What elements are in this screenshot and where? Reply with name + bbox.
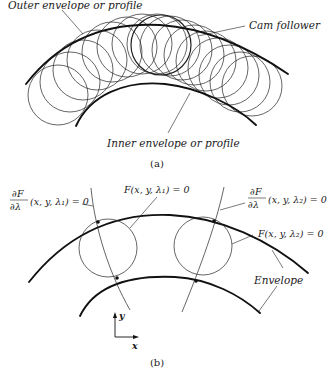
xy-axes: y x	[113, 310, 139, 351]
contact-point	[212, 219, 216, 223]
figure-a: Outer envelope or profile Cam follower I…	[8, 0, 321, 169]
contact-point	[194, 279, 198, 283]
envelope-outer-curve	[29, 215, 308, 282]
circle-lambda1	[79, 219, 137, 277]
dF-lambda1-line	[91, 188, 130, 310]
outer-envelope-label: Outer envelope or profile	[8, 0, 143, 11]
svg-text:∂F: ∂F	[12, 188, 24, 199]
svg-text:(x, y, λ₁) = 0: (x, y, λ₁) = 0	[30, 196, 89, 207]
dF-lambda2-label: ∂F ∂λ (x, y, λ₂) = 0	[248, 186, 327, 210]
cam-follower-label: Cam follower	[249, 19, 321, 31]
svg-text:∂λ: ∂λ	[248, 199, 259, 210]
y-axis-label: y	[118, 310, 126, 321]
dF-lambda2-line	[182, 187, 224, 312]
inner-envelope-curve	[76, 83, 256, 126]
F-lambda1-label: F(x, y, λ₁) = 0	[123, 184, 189, 195]
envelope-inner-curve	[80, 277, 260, 316]
figure-b: ∂F ∂λ (x, y, λ₁) = 0 F(x, y, λ₁) = 0 ∂F …	[10, 184, 327, 368]
F-lambda2-label: F(x, y, λ₂) = 0	[257, 228, 323, 239]
x-axis-label: x	[131, 340, 138, 351]
envelope-label: Envelope	[253, 274, 303, 286]
circle-lambda2	[174, 217, 232, 275]
contact-point	[115, 276, 119, 280]
cam-follower-circles	[28, 14, 282, 125]
contact-point	[96, 220, 100, 224]
inner-envelope-label: Inner envelope or profile	[106, 137, 240, 149]
dF-lambda1-label: ∂F ∂λ (x, y, λ₁) = 0	[10, 188, 89, 212]
caption-b: (b)	[150, 357, 164, 368]
svg-text:∂λ: ∂λ	[10, 201, 21, 212]
svg-text:∂F: ∂F	[250, 186, 262, 197]
caption-a: (a)	[150, 158, 164, 169]
svg-text:(x, y, λ₂) = 0: (x, y, λ₂) = 0	[268, 194, 327, 205]
envelope-diagram: Outer envelope or profile Cam follower I…	[0, 0, 328, 370]
